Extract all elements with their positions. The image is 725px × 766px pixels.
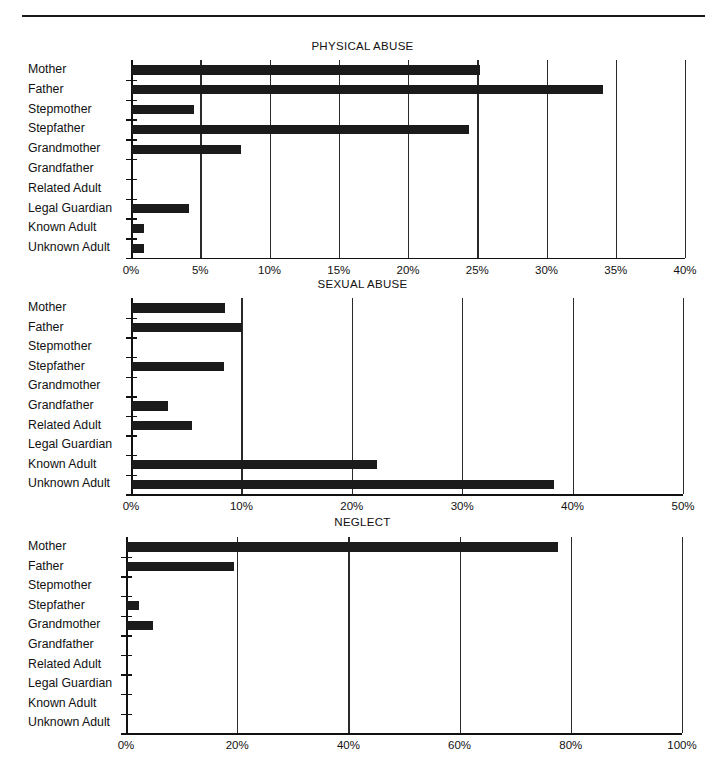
y-tick-mark xyxy=(126,416,137,417)
bar xyxy=(132,125,469,134)
x-tick-label: 10% xyxy=(240,264,300,276)
x-axis-line xyxy=(126,733,682,734)
x-tick-label: 40% xyxy=(543,500,603,512)
bar xyxy=(127,621,153,630)
bar xyxy=(132,145,241,154)
category-label: Stepmother xyxy=(28,578,121,592)
x-tick-label: 30% xyxy=(432,500,492,512)
plot-area xyxy=(131,298,683,494)
category-label: Stepfather xyxy=(28,598,121,612)
bar xyxy=(132,204,189,213)
chart-title: NEGLECT xyxy=(0,516,725,528)
x-tick-label: 5% xyxy=(170,264,230,276)
category-label: Grandmother xyxy=(28,617,121,631)
y-tick-mark xyxy=(126,455,137,456)
y-tick-mark xyxy=(126,357,137,358)
y-tick-mark xyxy=(126,396,137,397)
x-tick-label: 20% xyxy=(322,500,382,512)
x-tick-label: 20% xyxy=(207,739,267,751)
y-tick-mark xyxy=(126,179,137,180)
bar xyxy=(127,542,558,551)
y-tick-mark xyxy=(121,733,132,734)
y-tick-mark xyxy=(126,435,137,436)
chart-title: PHYSICAL ABUSE xyxy=(0,40,725,52)
x-tick-label: 60% xyxy=(430,739,490,751)
bar xyxy=(132,224,144,233)
x-tick-label: 50% xyxy=(653,500,713,512)
y-tick-mark xyxy=(121,596,132,597)
x-tick-label: 40% xyxy=(318,739,378,751)
gridline xyxy=(237,537,238,733)
gridline xyxy=(682,537,683,733)
category-label: Related Adult xyxy=(28,657,121,671)
y-tick-mark xyxy=(126,139,137,140)
category-label: Legal Guardian xyxy=(28,676,121,690)
y-tick-mark xyxy=(126,80,137,81)
gridline xyxy=(460,537,461,733)
plot-area xyxy=(131,60,685,258)
x-tick-label: 0% xyxy=(101,264,161,276)
category-label: Father xyxy=(28,320,126,334)
category-label: Unknown Adult xyxy=(28,715,121,729)
bar xyxy=(132,303,225,312)
bar xyxy=(132,460,377,469)
gridline xyxy=(348,537,349,733)
y-tick-mark xyxy=(121,576,132,577)
y-tick-mark xyxy=(126,238,137,239)
gridline xyxy=(462,298,463,494)
category-label: Mother xyxy=(28,539,121,553)
category-label: Stepmother xyxy=(28,102,126,116)
bar xyxy=(127,601,139,610)
category-label: Related Adult xyxy=(28,418,126,432)
y-tick-mark xyxy=(126,258,137,259)
gridline xyxy=(571,537,572,733)
x-tick-label: 100% xyxy=(652,739,712,751)
category-label: Known Adult xyxy=(28,220,126,234)
bar xyxy=(127,562,234,571)
bar xyxy=(132,65,480,74)
category-label: Known Adult xyxy=(28,696,121,710)
header-divider xyxy=(22,15,705,17)
y-tick-mark xyxy=(121,635,132,636)
y-tick-mark xyxy=(126,475,137,476)
y-tick-mark xyxy=(121,674,132,675)
bar xyxy=(132,362,224,371)
gridline xyxy=(683,298,684,494)
y-tick-mark xyxy=(126,377,137,378)
category-label: Father xyxy=(28,82,126,96)
y-tick-mark xyxy=(126,218,137,219)
category-label: Related Adult xyxy=(28,181,126,195)
bar xyxy=(132,85,603,94)
category-label: Stepfather xyxy=(28,121,126,135)
y-tick-mark xyxy=(126,100,137,101)
x-tick-label: 0% xyxy=(101,500,161,512)
bar xyxy=(132,480,554,489)
category-label: Stepmother xyxy=(28,339,126,353)
category-label: Known Adult xyxy=(28,457,126,471)
x-tick-label: 80% xyxy=(541,739,601,751)
y-tick-mark xyxy=(121,655,132,656)
category-label: Grandmother xyxy=(28,378,126,392)
y-tick-mark xyxy=(126,199,137,200)
y-tick-mark xyxy=(126,318,137,319)
y-tick-mark xyxy=(121,557,132,558)
y-tick-mark xyxy=(126,159,137,160)
category-label: Unknown Adult xyxy=(28,476,126,490)
x-tick-label: 30% xyxy=(517,264,577,276)
category-label: Grandfather xyxy=(28,637,121,651)
x-tick-label: 20% xyxy=(378,264,438,276)
bar xyxy=(132,323,242,332)
bar xyxy=(132,244,144,253)
gridline xyxy=(685,60,686,258)
chart-title: SEXUAL ABUSE xyxy=(0,278,725,290)
category-label: Father xyxy=(28,559,121,573)
x-tick-label: 35% xyxy=(586,264,646,276)
x-tick-label: 0% xyxy=(96,739,156,751)
category-label: Legal Guardian xyxy=(28,201,126,215)
bar xyxy=(132,105,194,114)
category-label: Stepfather xyxy=(28,359,126,373)
category-label: Grandfather xyxy=(28,398,126,412)
plot-area xyxy=(126,537,682,733)
y-tick-mark xyxy=(121,616,132,617)
category-label: Unknown Adult xyxy=(28,240,126,254)
